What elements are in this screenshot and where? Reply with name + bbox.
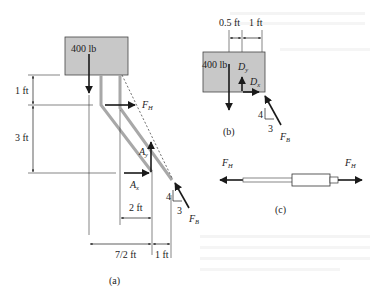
- dim-7-2ft-label: 7/2 ft: [115, 249, 137, 260]
- rod: [243, 178, 293, 182]
- force-FH-right-label: FH: [344, 157, 356, 169]
- slope-run-b: 3: [268, 123, 273, 134]
- force-FH-label: FH: [141, 99, 153, 111]
- caption-b: (b): [223, 126, 235, 138]
- dim-0.5ft-label: 0.5 ft: [219, 17, 240, 28]
- slope-rise: 4: [166, 191, 171, 202]
- slope-rise-b: 4: [258, 109, 263, 120]
- panel-a: 400 lb 1 ft 3 ft FH Ay Ax FB: [15, 37, 199, 287]
- load-label-b: 400 lb: [202, 59, 227, 70]
- dim-b-1ft-label: 1 ft: [249, 17, 263, 28]
- statics-diagram: 400 lb 1 ft 3 ft FH Ay Ax FB: [0, 0, 373, 303]
- load-label: 400 lb: [71, 43, 96, 54]
- dim-1ft-h-label: 1 ft: [155, 249, 169, 260]
- caption-c: (c): [275, 204, 286, 216]
- caption-a: (a): [109, 275, 120, 287]
- slope-run: 3: [177, 205, 182, 216]
- panel-b: 0.5 ft 1 ft 400 lb Dy Dx FB 4 3 (b): [202, 17, 290, 143]
- dim-2ft-label: 2 ft: [129, 202, 143, 213]
- force-FB-arrow-b: [265, 96, 281, 125]
- force-Ax-label: Ax: [129, 179, 139, 191]
- panel-c: FH FH (c): [220, 157, 362, 216]
- cylinder-cap: [330, 177, 338, 183]
- dim-1ft-label: 1 ft: [15, 85, 29, 96]
- force-Ay-label: Ay: [138, 146, 148, 158]
- cylinder: [292, 174, 330, 186]
- dim-3ft-label: 3 ft: [15, 132, 29, 143]
- force-FB-label: FB: [188, 213, 199, 225]
- line-of-action: [122, 75, 172, 178]
- force-FB-label-b: FB: [279, 131, 290, 143]
- force-FH-left-label: FH: [221, 157, 233, 169]
